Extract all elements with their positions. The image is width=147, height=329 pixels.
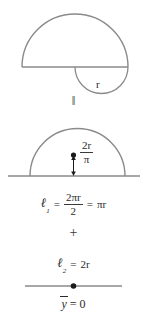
y-overbar: [60, 296, 67, 297]
l2-symbol: ℓ2: [57, 256, 66, 273]
centroid-distance-numerator: 2r: [80, 140, 93, 152]
l1-subscript: 1: [46, 207, 50, 215]
middle-semicircle-arc: [30, 129, 125, 176]
centroid-distance-fraction: 2r π: [80, 140, 93, 165]
centroid-distance-denominator: π: [80, 153, 93, 165]
middle-semicircle-shape: [8, 129, 140, 176]
top-semicircle-shape: [22, 14, 128, 94]
top-semicircle-arc: [22, 14, 128, 67]
centroid-diagram: r ‖ 2r π ℓ1 = 2πr 2 = πr + ℓ2 = 2r y=0: [0, 0, 147, 329]
equivalence-symbol: ‖: [0, 94, 147, 107]
l2-value: 2r: [80, 259, 89, 270]
top-radius-arc: [75, 67, 128, 94]
diagram-vector-layer: [0, 0, 147, 329]
l1-equals-second: =: [87, 199, 93, 210]
l2-subscript: 2: [63, 267, 67, 275]
plus-symbol: +: [0, 226, 147, 240]
l1-equals-first: =: [54, 199, 60, 210]
l1-numerator: 2πr: [64, 192, 83, 204]
y-glyph: y: [61, 297, 66, 311]
y-bar-equals: =: [67, 297, 80, 311]
radius-label-r: r: [96, 79, 100, 90]
y-bar-value: 0: [80, 297, 86, 311]
l2-equals: =: [70, 259, 76, 270]
bottom-line-shape: [25, 283, 122, 289]
l1-result: πr: [97, 199, 106, 210]
y-bar-result: y=0: [0, 298, 147, 310]
l2-glyph: ℓ: [57, 255, 62, 270]
l1-symbol: ℓ1: [41, 196, 50, 213]
bottom-centroid-dot: [71, 283, 77, 289]
y-bar-variable: y: [61, 298, 66, 310]
l1-fraction: 2πr 2: [64, 192, 83, 217]
l1-denominator: 2: [64, 205, 83, 217]
equation-l2: ℓ2 = 2r: [0, 256, 147, 273]
equation-l1: ℓ1 = 2πr 2 = πr: [0, 192, 147, 217]
dimension-arrow-head-down: [71, 172, 76, 176]
